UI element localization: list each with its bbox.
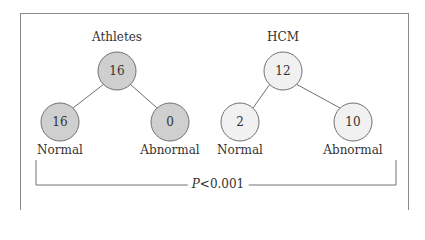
hcm-abnormal-value: 10	[345, 115, 360, 129]
athletes-total-value: 16	[109, 64, 124, 78]
athletes-normal-value: 16	[52, 115, 67, 129]
hcm-total-value: 12	[275, 64, 290, 78]
p-symbol: P	[192, 177, 200, 191]
hcm-title: HCM	[267, 30, 299, 44]
p-text: <0.001	[200, 177, 244, 191]
athletes-abnormal-value: 0	[166, 115, 174, 129]
athletes-title: Athletes	[92, 30, 142, 44]
athletes-abnormal-label: Abnormal	[140, 143, 199, 157]
athletes-normal-label: Normal	[37, 143, 83, 157]
p-value-label: P<0.001	[188, 177, 249, 191]
hcm-abnormal-label: Abnormal	[323, 143, 382, 157]
hcm-normal-label: Normal	[217, 143, 263, 157]
hcm-normal-value: 2	[236, 115, 244, 129]
